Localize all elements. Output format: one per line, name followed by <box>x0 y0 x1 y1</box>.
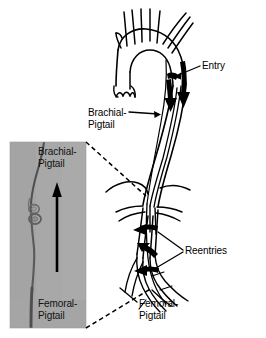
dissection-flap <box>150 86 181 207</box>
inset-label-femoral-pigtail-line2: Pigtail <box>38 310 77 322</box>
label-femoral-pigtail-line2: Pigtail <box>139 310 178 322</box>
aorta-drawing <box>106 9 193 312</box>
label-entry: Entry <box>202 60 225 72</box>
label-brachial-pigtail-line1: Brachial- <box>88 107 127 119</box>
inset-label-brachial-pigtail-line1: Brachial- <box>38 146 77 158</box>
entry-flow-arrows <box>165 61 191 112</box>
visceral-branches <box>116 206 182 234</box>
leader-brachial <box>129 112 158 114</box>
dashed-connector-upper <box>86 142 146 196</box>
inset-label-brachial-pigtail-line2: Pigtail <box>38 158 77 170</box>
label-femoral-pigtail-line1: Femoral- <box>139 298 178 310</box>
label-brachial-pigtail: Brachial- Pigtail <box>88 107 127 130</box>
label-reentries: Reentries <box>185 245 227 257</box>
distal-arch-vessels <box>163 13 193 53</box>
aortic-valve-cusps <box>114 86 136 97</box>
diaphragm-contour-left <box>106 182 148 194</box>
anatomy-illustration <box>0 0 266 338</box>
label-femoral-pigtail: Femoral- Pigtail <box>139 298 178 321</box>
inset-label-brachial-pigtail: Brachial- Pigtail <box>38 146 77 169</box>
label-brachial-pigtail-line2: Pigtail <box>88 119 127 131</box>
inset-label-femoral-pigtail-line1: Femoral- <box>38 298 77 310</box>
ascending-aorta-left-wall <box>116 50 118 86</box>
diaphragm-contour-right <box>160 186 190 190</box>
leader-brachial-arrowhead <box>154 111 161 118</box>
inset-label-femoral-pigtail: Femoral- Pigtail <box>38 298 77 321</box>
figure-root: Entry Brachial- Pigtail Reentries Femora… <box>0 0 266 338</box>
supra-aortic-branches <box>116 9 160 48</box>
leader-reentries-lower <box>156 252 183 268</box>
leader-femoral <box>120 288 137 302</box>
leader-reentries-upper <box>158 232 183 250</box>
